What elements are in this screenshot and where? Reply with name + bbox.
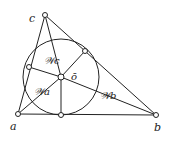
label-c: c — [29, 12, 35, 25]
tangent-point-bc — [83, 49, 88, 54]
incenter-o — [58, 74, 64, 80]
tangent-point-ac — [27, 65, 32, 70]
segment-c-o — [45, 15, 61, 77]
label-o: ō — [71, 71, 77, 82]
tangent-point-ab — [59, 113, 64, 118]
label-b: b — [154, 121, 161, 134]
triangle-abc — [18, 15, 156, 115]
label-wa: 𝒲a — [34, 86, 50, 97]
label-wb: 𝒲b — [100, 90, 116, 101]
segment-o-tangent-ac — [29, 67, 61, 77]
vertex-b — [154, 113, 159, 118]
vertex-a — [16, 112, 21, 117]
label-a: a — [10, 120, 17, 133]
label-wc: 𝒲c — [44, 55, 60, 66]
incircle-diagram: a b c ō 𝒲c 𝒲a 𝒲b — [0, 0, 175, 143]
vertex-c — [43, 13, 48, 18]
